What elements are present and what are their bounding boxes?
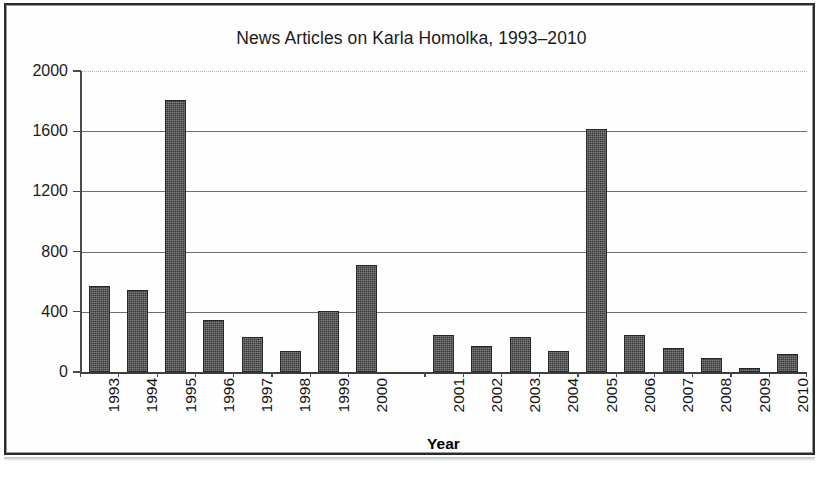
- x-axis-tick: [80, 372, 81, 377]
- x-axis-label-2006: 2006: [641, 378, 659, 412]
- bar-2010: [777, 354, 798, 372]
- bar-2003: [510, 337, 531, 372]
- x-axis-label-2000: 2000: [373, 378, 391, 412]
- scanned-page-frame: News Articles on Karla Homolka, 1993–201…: [4, 3, 815, 455]
- x-axis-tick: [692, 372, 693, 377]
- x-axis-label-2003: 2003: [526, 378, 544, 412]
- bar-2007: [663, 348, 684, 372]
- x-axis-tick: [577, 372, 578, 377]
- x-axis-tick: [806, 372, 807, 377]
- x-axis-label-1996: 1996: [220, 378, 238, 412]
- bars-layer: [80, 71, 807, 372]
- x-axis-label-2008: 2008: [717, 378, 735, 412]
- x-axis-label-2005: 2005: [603, 378, 621, 412]
- x-axis-label-1993: 1993: [105, 378, 123, 412]
- x-axis-label-1994: 1994: [143, 378, 161, 412]
- bar-2005: [586, 129, 607, 372]
- x-axis-labels: 1993199419951996199719981999200020012002…: [80, 378, 807, 434]
- y-axis-tick-label: 800: [8, 243, 68, 261]
- x-axis-label-1998: 1998: [296, 378, 314, 412]
- x-axis-label-2001: 2001: [450, 378, 468, 412]
- x-axis-label-2007: 2007: [679, 378, 697, 412]
- screenshot-root: News Articles on Karla Homolka, 1993–201…: [0, 0, 821, 478]
- x-axis-tick: [616, 372, 617, 377]
- x-axis-tick: [730, 372, 731, 377]
- bar-2000: [356, 265, 377, 372]
- x-axis-label-1995: 1995: [182, 378, 200, 412]
- y-axis-tick-label: 400: [8, 303, 68, 321]
- bar-1994: [127, 290, 148, 372]
- bar-1999: [318, 311, 339, 372]
- x-axis-tick: [310, 372, 311, 377]
- x-axis-tick: [157, 372, 158, 377]
- x-axis-label-1999: 1999: [335, 378, 353, 412]
- x-axis-label-2002: 2002: [488, 378, 506, 412]
- bar-2006: [624, 335, 645, 372]
- x-axis-title: Year: [80, 435, 807, 453]
- bar-1993: [89, 286, 110, 372]
- x-axis-tick: [118, 372, 119, 377]
- chart-title: News Articles on Karla Homolka, 1993–201…: [6, 28, 817, 49]
- y-axis-labels: 0400800120016002000: [6, 5, 68, 457]
- bar-1997: [242, 337, 263, 372]
- bar-1996: [203, 320, 224, 372]
- x-axis-tick: [463, 372, 464, 377]
- x-axis-tick: [501, 372, 502, 377]
- y-axis-tick-label: 0: [8, 363, 68, 381]
- x-axis-tick: [271, 372, 272, 377]
- x-axis-tick: [424, 372, 425, 377]
- x-axis-tick: [195, 372, 196, 377]
- x-axis-label-2004: 2004: [564, 378, 582, 412]
- x-axis-tick: [654, 372, 655, 377]
- y-axis-tick-label: 1200: [8, 182, 68, 200]
- bar-1998: [280, 351, 301, 372]
- x-axis-label-1997: 1997: [258, 378, 276, 412]
- x-axis-tick: [539, 372, 540, 377]
- bar-2008: [701, 358, 722, 372]
- x-axis-label-2009: 2009: [756, 378, 774, 412]
- x-axis-tick: [233, 372, 234, 377]
- x-axis-tick: [769, 372, 770, 377]
- page-bottom-edge: [4, 457, 815, 461]
- bar-2002: [471, 346, 492, 372]
- bar-2001: [433, 335, 454, 372]
- x-axis-label-2010: 2010: [794, 378, 812, 412]
- x-axis-tick: [348, 372, 349, 377]
- bar-1995: [165, 100, 186, 372]
- y-axis-tick-label: 2000: [8, 62, 68, 80]
- bar-2004: [548, 351, 569, 372]
- y-axis-tick-label: 1600: [8, 122, 68, 140]
